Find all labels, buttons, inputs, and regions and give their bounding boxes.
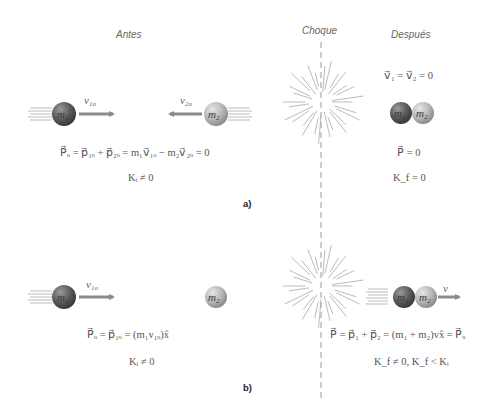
figure-label-a: a) [243,198,251,209]
burst-ray [323,66,325,92]
figure-label-b: b) [243,382,252,393]
equation-b-kinetic-after: K_f ≠ 0, K_f < Kᵢ [374,356,449,367]
velocity-label-a-1: v1o [84,94,96,108]
equation-a-velocity-after: v⃗₁ = v⃗₂ = 0 [384,69,433,81]
burst-ray [332,280,364,285]
velocity-label-a-2: v2o [180,94,192,108]
equation-b-kinetic-before: Kᵢ ≠ 0 [129,356,155,367]
equation-b-momentum-before: P⃗ₒ = p⃗₁ₒ = (m₁v₁ₒ)x̂ [87,328,169,340]
ball-b-after-m2: m2 [415,286,437,308]
collision-burst-b [283,245,364,328]
ball-b-m1: m1 [52,285,76,309]
equation-a-momentum-after: P⃗ = 0 [397,146,420,158]
velocity-label-b-1: v1o [86,278,98,292]
motion-lines-a-m2 [228,108,252,120]
burst-ray [302,295,317,320]
burst-ray [328,72,346,95]
collision-burst-a [283,61,364,144]
burst-ray [319,115,321,144]
ball-b-after-m1: m1 [393,286,415,308]
burst-ray [328,117,333,130]
burst-ray [315,302,319,319]
burst-ray [289,104,309,107]
ball-a-m1: m1 [52,102,76,126]
ball-a-after-m2: m2 [412,102,434,124]
motion-lines-b-after [366,289,388,304]
burst-ray [289,288,309,291]
equation-b-momentum-after: P⃗ = p⃗₁ + p⃗₂ = (m₁ + m₂)vx̂ = P⃗ₒ [330,328,465,340]
burst-ray [332,96,364,101]
burst-ray [323,250,325,276]
motion-lines-b-m1 [28,291,52,303]
ball-a-after-m1: m1 [390,102,412,124]
burst-ray [328,256,346,279]
velocity-label-b-after: v [443,282,448,294]
equation-a-kinetic-before: Kᵢ ≠ 0 [128,172,154,183]
burst-ray [325,61,331,89]
ball-a-m2: m2 [204,102,228,126]
motion-lines-a-m1 [28,108,52,120]
burst-ray [328,301,333,314]
equation-a-momentum-before: P⃗ₒ = p⃗₁ₒ + p⃗₂ₒ = m₁v⃗₁ₒ − m₂v⃗₂ₒ = 0 [60,146,210,158]
burst-ray [302,111,317,136]
burst-ray [324,112,330,137]
ball-b-m2: m2 [205,286,227,308]
burst-ray [315,118,319,135]
burst-ray [315,73,318,87]
burst-ray [315,257,318,271]
burst-ray [324,296,330,321]
burst-ray [325,245,331,273]
equation-a-kinetic-after: K_f = 0 [393,172,426,183]
